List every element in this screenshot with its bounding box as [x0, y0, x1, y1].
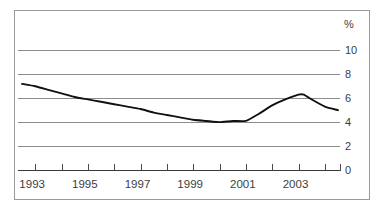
y-tick-label-4: 4 — [345, 116, 351, 128]
y-tick-label-2: 2 — [345, 140, 351, 152]
chart-labels-layer: % 0246810 199319951997199920012003 — [0, 0, 388, 213]
y-tick-label-0: 0 — [345, 164, 351, 176]
y-tick-label-6: 6 — [345, 92, 351, 104]
x-tick-label-2001: 2001 — [230, 178, 256, 190]
y-axis-tick-labels: 0246810 — [345, 44, 357, 176]
x-tick-label-2003: 2003 — [283, 178, 309, 190]
y-axis-unit-label: % — [344, 18, 354, 30]
x-tick-label-1999: 1999 — [177, 178, 203, 190]
x-axis-tick-labels: 199319951997199920012003 — [19, 178, 308, 190]
x-tick-label-1993: 1993 — [19, 178, 45, 190]
x-tick-label-1995: 1995 — [72, 178, 98, 190]
y-tick-label-8: 8 — [345, 68, 351, 80]
y-tick-label-10: 10 — [345, 44, 357, 56]
chart-figure: % 0246810 199319951997199920012003 — [0, 0, 388, 213]
x-tick-label-1997: 1997 — [125, 178, 151, 190]
